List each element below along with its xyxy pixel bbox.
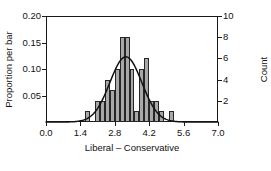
y-axis-right-tick [218,58,222,59]
x-axis-tick [115,122,116,126]
x-axis-tick-label: 7.0 [211,128,224,138]
y-axis-left-tick-label: 0.10 [23,64,42,74]
y-axis-right-tick-label: 2 [223,96,228,106]
y-axis-left-title: Proportion per bar [2,16,14,122]
y-axis-left-tick-label: 0.15 [23,38,42,48]
x-axis-tick-label: 0.0 [39,128,52,138]
x-axis-tick [46,122,47,126]
histogram-figure: Proportion per bar Count Liberal – Conse… [0,0,271,171]
y-axis-left-tick-label: 0.20 [23,11,42,21]
y-axis-left-tick [42,43,46,44]
y-axis-right-tick [218,16,222,17]
plot-area: 0.01.42.84.25.67.00.050.100.150.20246810 [46,16,218,122]
y-axis-right-tick [218,101,222,102]
y-axis-right-title: Count [258,16,270,122]
y-axis-left-title-text: Proportion per bar [3,31,14,108]
x-axis-tick-label: 2.8 [108,128,121,138]
y-axis-right-tick [218,80,222,81]
y-axis-right-tick-label: 10 [223,11,234,21]
x-axis-tick [184,122,185,126]
y-axis-right-tick-label: 6 [223,54,228,64]
x-axis-tick [149,122,150,126]
x-axis-tick-label: 5.6 [177,128,190,138]
y-axis-right-tick-label: 4 [223,75,228,85]
x-axis-title: Liberal – Conservative [46,142,218,153]
x-axis-tick-label: 1.4 [74,128,87,138]
x-axis-tick [80,122,81,126]
normal-density-curve [46,16,218,122]
y-axis-right-title-text: Count [259,56,270,81]
y-axis-right-tick-label: 8 [223,32,228,42]
y-axis-left-tick-label: 0.05 [23,91,42,101]
x-axis-tick-label: 4.2 [143,128,156,138]
y-axis-left-tick [42,16,46,17]
y-axis-left-tick [42,96,46,97]
y-axis-left-tick [42,69,46,70]
x-axis-tick [218,122,219,126]
y-axis-right-tick [218,37,222,38]
